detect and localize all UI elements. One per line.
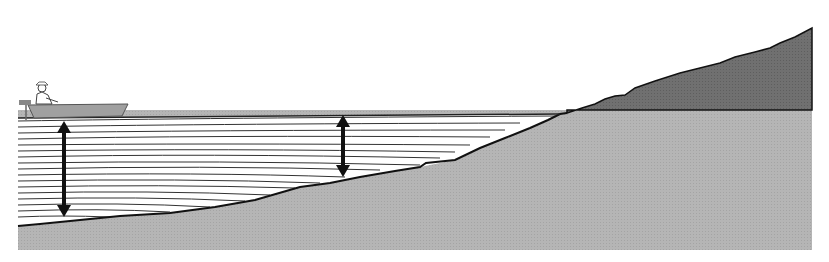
- lake-depth-diagram: [0, 0, 829, 262]
- fisherman-body: [36, 92, 52, 104]
- diagram-canvas: [0, 0, 829, 262]
- fisherman-hat: [36, 82, 48, 85]
- outboard-motor: [19, 100, 31, 105]
- hill: [567, 28, 812, 113]
- boat-hull: [28, 104, 128, 118]
- boat-with-fisherman: [19, 82, 128, 120]
